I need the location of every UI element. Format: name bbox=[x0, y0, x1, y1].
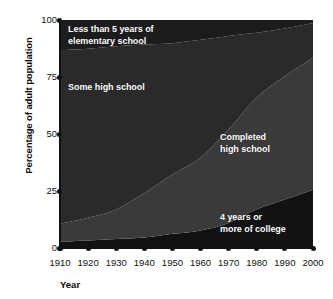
x-tick-dot bbox=[58, 246, 63, 251]
y-tick-dot bbox=[57, 132, 62, 137]
x-tick-dot bbox=[142, 246, 147, 251]
x-tick-label: 2000 bbox=[296, 258, 330, 268]
y-tick-label: 0 bbox=[27, 243, 57, 253]
chart-figure: Percentage of adult population Year Less… bbox=[0, 0, 333, 299]
x-tick-dot bbox=[282, 246, 287, 251]
y-tick-label: 100 bbox=[27, 15, 57, 25]
y-tick-dot bbox=[57, 189, 62, 194]
x-tick-dot bbox=[311, 246, 316, 251]
series-label-some-high-school: Some high school bbox=[68, 82, 145, 94]
y-tick-label: 25 bbox=[27, 186, 57, 196]
y-axis-title: Percentage of adult population bbox=[23, 0, 34, 216]
y-tick-label: 50 bbox=[27, 129, 57, 139]
x-axis-title: Year bbox=[60, 279, 80, 290]
plot-area: Less than 5 years of elementary school S… bbox=[60, 20, 313, 248]
y-tick-dot bbox=[57, 18, 62, 23]
series-label-completed-high-school: Completed high school bbox=[220, 132, 270, 155]
x-axis-line bbox=[59, 247, 313, 249]
x-tick-dot bbox=[114, 246, 119, 251]
y-tick-dot bbox=[57, 75, 62, 80]
x-tick-dot bbox=[170, 246, 175, 251]
y-tick-label: 75 bbox=[27, 72, 57, 82]
series-label-elementary: Less than 5 years of elementary school bbox=[68, 24, 154, 47]
x-tick-dot bbox=[254, 246, 259, 251]
x-tick-dot bbox=[86, 246, 91, 251]
series-label-college: 4 years or more of college bbox=[220, 212, 286, 235]
x-tick-dot bbox=[226, 246, 231, 251]
x-tick-dot bbox=[198, 246, 203, 251]
